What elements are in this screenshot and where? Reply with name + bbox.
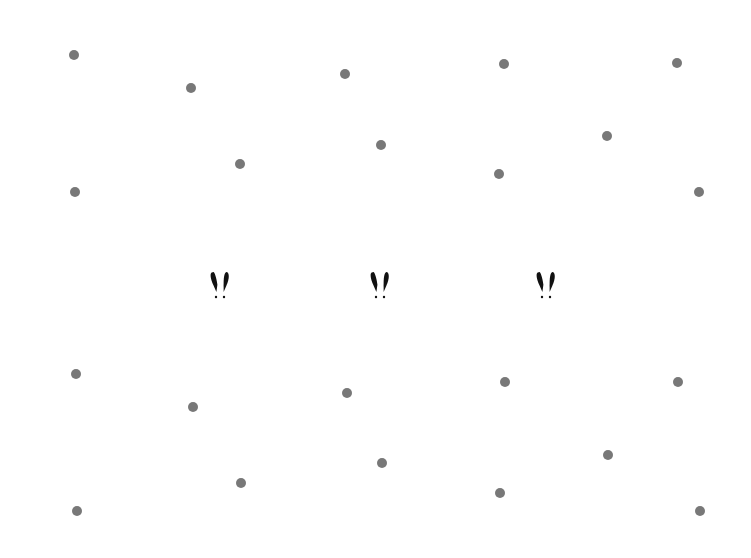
dot (673, 377, 683, 387)
dot (235, 159, 245, 169)
dot (602, 131, 612, 141)
dot (340, 69, 350, 79)
dot (695, 506, 705, 516)
dot (500, 377, 510, 387)
double-exclamation-icon (209, 270, 231, 300)
dot (376, 140, 386, 150)
dot (495, 488, 505, 498)
dot (499, 59, 509, 69)
dot (72, 506, 82, 516)
dot (236, 478, 246, 488)
dot (186, 83, 196, 93)
dot (342, 388, 352, 398)
dot (603, 450, 613, 460)
dot (694, 187, 704, 197)
dot (494, 169, 504, 179)
dot (377, 458, 387, 468)
dot (70, 187, 80, 197)
dot (188, 402, 198, 412)
dot (69, 50, 79, 60)
pattern-canvas (0, 0, 751, 558)
dot (672, 58, 682, 68)
double-exclamation-icon (535, 270, 557, 300)
double-exclamation-icon (369, 270, 391, 300)
dot (71, 369, 81, 379)
